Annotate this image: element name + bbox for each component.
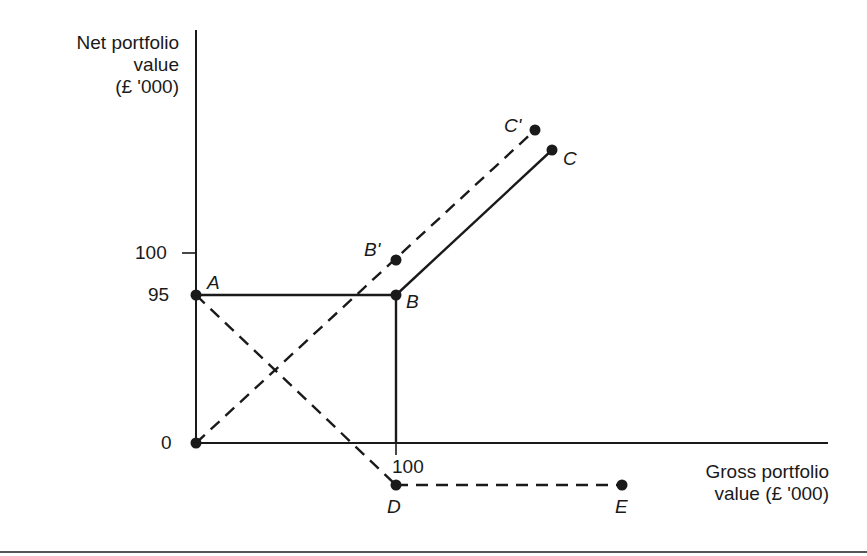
point-c	[547, 145, 558, 156]
dashed-line-o-c-prime	[196, 130, 535, 443]
x-tick-label-100: 100	[392, 457, 424, 477]
point-d	[391, 480, 402, 491]
y-axis-label-line-3: (£ '000)	[9, 76, 179, 98]
y-axis-label: Net portfolio value (£ '000)	[9, 32, 179, 98]
x-axis-label-line-2: value (£ '000)	[637, 483, 829, 505]
y-tick-label-100: 100	[135, 243, 167, 263]
label-b: B	[406, 292, 419, 312]
label-a: A	[207, 273, 220, 293]
point-c-prime	[530, 125, 541, 136]
x-axis-label-line-1: Gross portfolio	[637, 461, 829, 483]
y-tick-label-95: 95	[148, 285, 169, 305]
point-b	[391, 290, 402, 301]
point-e	[617, 480, 628, 491]
y-axis-label-line-1: Net portfolio	[9, 32, 179, 54]
label-d: D	[387, 497, 401, 517]
y-tick-label-0: 0	[161, 433, 172, 453]
label-e: E	[615, 497, 628, 517]
label-c-prime: C'	[504, 116, 521, 136]
label-b-prime: B'	[364, 240, 380, 260]
x-axis-label: Gross portfolio value (£ '000)	[637, 461, 829, 505]
y-axis-label-line-2: value	[9, 54, 179, 76]
line-b-c	[396, 150, 552, 295]
label-c: C	[563, 149, 577, 169]
point-b-prime	[391, 255, 402, 266]
point-a	[191, 290, 202, 301]
point-origin	[191, 438, 202, 449]
dashed-line-a-d	[196, 295, 396, 485]
